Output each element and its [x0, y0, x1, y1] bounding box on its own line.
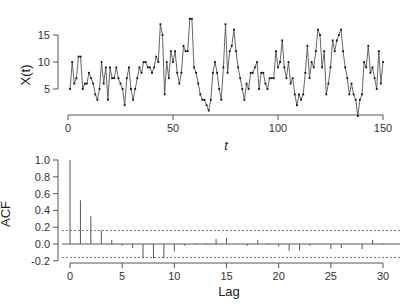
data-point-marker: [258, 88, 260, 90]
top-y-axis: 51015: [38, 29, 58, 95]
data-point-marker: [334, 50, 336, 52]
data-point-marker: [162, 34, 164, 36]
acf-x-axis-title: Lag: [218, 284, 240, 299]
data-point-marker: [170, 50, 172, 52]
acf-x-tick-label: 20: [273, 270, 285, 282]
data-point-marker: [277, 67, 279, 69]
data-point-marker: [325, 94, 327, 96]
data-point-marker: [193, 67, 195, 69]
data-point-marker: [151, 72, 153, 74]
data-point-marker: [309, 77, 311, 79]
data-point-marker: [235, 50, 237, 52]
data-point-marker: [109, 67, 111, 69]
data-point-marker: [256, 61, 258, 63]
data-point-marker: [208, 110, 210, 112]
data-point-marker: [94, 94, 96, 96]
data-point-marker: [248, 88, 250, 90]
data-point-marker: [252, 72, 254, 74]
data-point-marker: [353, 94, 355, 96]
data-point-marker: [174, 50, 176, 52]
data-point-marker: [101, 61, 103, 63]
data-point-marker: [298, 94, 300, 96]
data-point-marker: [286, 77, 288, 79]
data-point-marker: [139, 67, 141, 69]
data-point-marker: [328, 83, 330, 85]
data-point-marker: [191, 18, 193, 20]
data-point-marker: [143, 61, 145, 63]
data-point-marker: [346, 77, 348, 79]
acf-y-tick-label: 1.0: [35, 154, 50, 166]
data-point-marker: [336, 40, 338, 42]
data-point-marker: [307, 45, 309, 47]
data-point-marker: [145, 61, 147, 63]
data-point-marker: [164, 94, 166, 96]
acf-confidence-band: [62, 231, 400, 258]
data-point-marker: [321, 67, 323, 69]
data-point-marker: [246, 83, 248, 85]
data-point-marker: [376, 88, 378, 90]
acf-x-tick-label: 30: [377, 270, 389, 282]
data-point-marker: [183, 45, 185, 47]
data-point-marker: [311, 61, 313, 63]
data-point-marker: [210, 99, 212, 101]
acf-y-tick-label: 0.0: [35, 238, 50, 250]
data-point-marker: [237, 67, 239, 69]
data-point-marker: [363, 61, 365, 63]
top-y-tick-label: 5: [44, 83, 50, 95]
data-point-marker: [296, 104, 298, 106]
data-point-marker: [370, 72, 372, 74]
data-point-marker: [294, 94, 296, 96]
data-point-marker: [382, 61, 384, 63]
top-x-tick-label: 100: [269, 122, 287, 134]
data-point-marker: [357, 115, 359, 117]
acf-y-tick-label: 0.2: [35, 221, 50, 233]
data-point-marker: [361, 94, 363, 96]
figure: 51015 050100150 X(t) t 1.00.80.60.40.20.…: [0, 0, 415, 307]
data-point-marker: [118, 77, 120, 79]
data-point-marker: [281, 40, 283, 42]
data-point-marker: [250, 72, 252, 74]
acf-plot: 1.00.80.60.40.20.0-0.2 051015202530 ACF …: [0, 154, 400, 299]
data-point-marker: [176, 72, 178, 74]
data-point-marker: [367, 45, 369, 47]
data-point-marker: [84, 83, 86, 85]
data-point-marker: [380, 83, 382, 85]
acf-x-tick-label: 25: [325, 270, 337, 282]
data-point-marker: [244, 99, 246, 101]
data-point-marker: [147, 67, 149, 69]
data-point-marker: [71, 61, 73, 63]
data-point-marker: [338, 34, 340, 36]
data-point-marker: [365, 67, 367, 69]
data-point-marker: [90, 77, 92, 79]
data-point-marker: [349, 94, 351, 96]
data-point-marker: [166, 61, 168, 63]
data-point-marker: [113, 77, 115, 79]
top-y-tick-label: 15: [38, 29, 50, 41]
acf-y-axis: 1.00.80.60.40.20.0-0.2: [31, 154, 58, 267]
data-point-marker: [372, 67, 374, 69]
data-point-marker: [262, 72, 264, 74]
data-point-marker: [122, 88, 124, 90]
data-point-marker: [126, 77, 128, 79]
data-point-marker: [313, 67, 315, 69]
data-point-marker: [271, 77, 273, 79]
data-point-marker: [206, 104, 208, 106]
data-point-marker: [359, 99, 361, 101]
data-point-marker: [267, 88, 269, 90]
acf-x-tick-label: 10: [168, 270, 180, 282]
data-point-marker: [187, 50, 189, 52]
top-x-tick-label: 50: [167, 122, 179, 134]
data-point-marker: [292, 77, 294, 79]
data-point-marker: [132, 99, 134, 101]
data-point-marker: [254, 67, 256, 69]
data-point-marker: [73, 83, 75, 85]
top-y-tick-label: 10: [38, 56, 50, 68]
data-point-marker: [92, 83, 94, 85]
data-point-marker: [214, 61, 216, 63]
data-point-marker: [134, 88, 136, 90]
data-point-marker: [315, 50, 317, 52]
data-point-marker: [319, 34, 321, 36]
data-point-marker: [88, 72, 90, 74]
data-point-marker: [82, 88, 84, 90]
data-point-marker: [302, 94, 304, 96]
